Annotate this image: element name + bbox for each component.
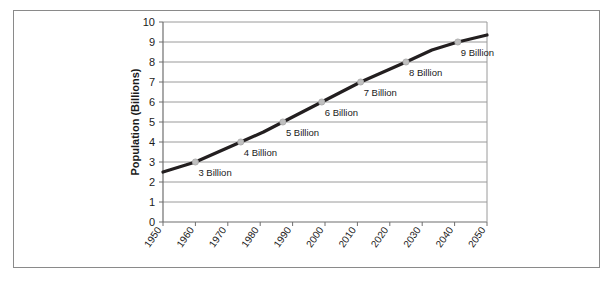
x-tick-label-1950: 1950 [142, 224, 164, 249]
y-tick-label-9: 9 [149, 36, 155, 48]
y-tick-label-2: 2 [149, 176, 155, 188]
annotation-3-billion: 3 Billion [198, 167, 231, 178]
marker-7-billion [358, 79, 364, 85]
x-axis-ticks [163, 222, 487, 226]
y-tick-label-4: 4 [149, 136, 155, 148]
y-tick-label-5: 5 [149, 116, 155, 128]
marker-3-billion [192, 159, 198, 165]
annotation-5-billion: 5 Billion [286, 127, 319, 138]
annotation-4-billion: 4 Billion [244, 147, 277, 158]
x-tick-label-2020: 2020 [369, 224, 391, 249]
y-tick-label-6: 6 [149, 96, 155, 108]
marker-4-billion [238, 139, 244, 145]
x-tick-label-2050: 2050 [466, 224, 488, 249]
x-tick-label-1960: 1960 [174, 224, 196, 249]
y-tick-label-3: 3 [149, 156, 155, 168]
y-axis-tick-labels: 012345678910 [143, 16, 155, 228]
y-axis-title: Population (Billions) [129, 68, 141, 175]
marker-6-billion [319, 99, 325, 105]
marker-8-billion [403, 59, 409, 65]
data-point-labels: 3 Billion4 Billion5 Billion6 Billion7 Bi… [198, 47, 494, 178]
x-tick-label-2040: 2040 [433, 224, 455, 249]
marker-9-billion [455, 39, 461, 45]
population-line-chart: 012345678910 195019601970198019902000201… [0, 0, 616, 282]
annotation-6-billion: 6 Billion [325, 107, 358, 118]
x-tick-label-1980: 1980 [239, 224, 261, 249]
x-axis-tick-labels: 1950196019701980199020002010202020302040… [142, 224, 488, 249]
x-tick-label-1970: 1970 [207, 224, 229, 249]
annotation-9-billion: 9 Billion [461, 47, 494, 58]
y-tick-label-10: 10 [143, 16, 155, 28]
x-tick-label-2010: 2010 [336, 224, 358, 249]
annotation-7-billion: 7 Billion [364, 87, 397, 98]
y-tick-label-8: 8 [149, 56, 155, 68]
x-tick-label-2030: 2030 [401, 224, 423, 249]
x-tick-label-1990: 1990 [271, 224, 293, 249]
population-line [163, 35, 487, 172]
y-tick-label-1: 1 [149, 196, 155, 208]
annotation-8-billion: 8 Billion [409, 67, 442, 78]
x-tick-label-2000: 2000 [304, 224, 326, 249]
marker-5-billion [280, 119, 286, 125]
y-tick-label-7: 7 [149, 76, 155, 88]
